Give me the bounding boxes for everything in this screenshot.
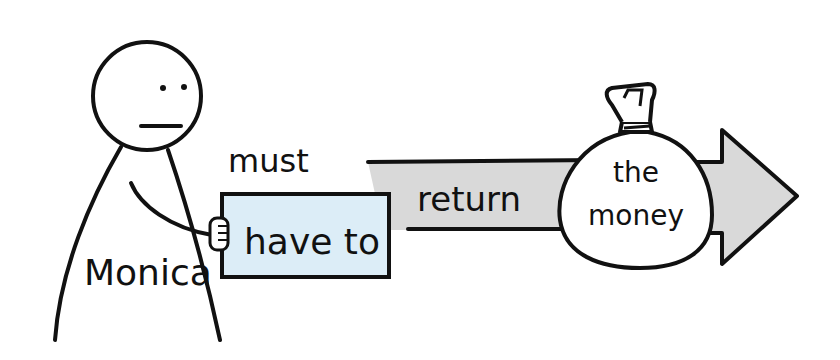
- person-label: Monica: [84, 252, 212, 293]
- modal-main-label: have to: [244, 221, 380, 262]
- modal-top-label: must: [228, 142, 309, 180]
- verb-label: return: [417, 179, 521, 219]
- head: [93, 42, 201, 150]
- diagram-canvas: return the money have to must Monica: [0, 0, 840, 360]
- person-figure: [55, 42, 220, 340]
- object-label-line1: the: [613, 156, 659, 189]
- object-label-line2: money: [588, 199, 684, 232]
